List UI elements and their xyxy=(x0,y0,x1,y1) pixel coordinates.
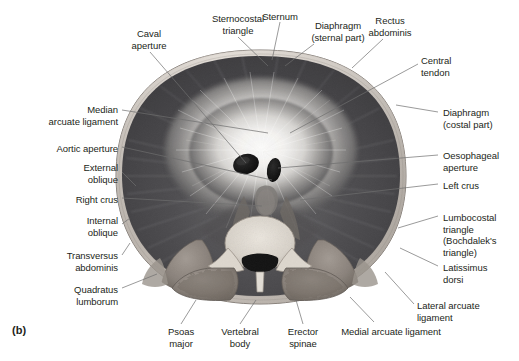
label-aortic-aperture: Aortic aperture xyxy=(18,143,118,155)
label-right-crus: Right crus xyxy=(38,194,118,206)
figure-marker: (b) xyxy=(12,324,26,336)
label-rectus-abdominis: Rectus abdominis xyxy=(358,15,422,38)
leader-line-erector-spinae xyxy=(296,300,303,324)
anatomical-figure: Caval apertureSternocostal triangleStern… xyxy=(0,0,519,361)
label-oesophageal-aperture: Oesophageal aperture xyxy=(443,150,519,173)
label-erector-spinae: Erector spinae xyxy=(278,326,328,349)
leader-line-medial-arcuate xyxy=(350,297,374,322)
label-medial-arcuate: Medial arcuate ligament xyxy=(330,326,452,338)
label-external-oblique: External oblique xyxy=(40,162,118,185)
leader-line-lateral-arcuate xyxy=(385,272,414,304)
label-median-arcuate: Median arcuate ligament xyxy=(18,104,118,127)
label-lumbocostal-triangle: Lumbocostal triangle (Bochdalek's triang… xyxy=(443,212,519,258)
leader-line-transversus-abdominis xyxy=(122,243,130,255)
leader-line-diaphragm-costal xyxy=(396,105,438,112)
label-central-tendon: Central tendon xyxy=(421,55,481,78)
label-caval-aperture: Caval aperture xyxy=(113,28,185,51)
label-lateral-arcuate: Lateral arcuate ligament xyxy=(417,300,501,323)
leader-line-latissimus-dorsi xyxy=(400,248,438,266)
label-left-crus: Left crus xyxy=(443,180,503,192)
label-vertebral-body: Vertebral body xyxy=(212,326,268,349)
label-quadratus-lumborum: Quadratus lumborum xyxy=(30,284,118,307)
label-internal-oblique: Internal oblique xyxy=(40,215,118,238)
leader-line-rectus-abdominis xyxy=(352,39,383,68)
leader-line-lumbocostal-triangle xyxy=(398,216,438,228)
label-latissimus-dorsi: Latissimus dorsi xyxy=(443,262,511,285)
label-transversus-abdominis: Transversus abdominis xyxy=(22,250,118,273)
label-psoas-major: Psoas major xyxy=(157,326,205,349)
label-diaphragm-costal: Diaphragm (costal part) xyxy=(443,107,517,130)
leader-line-psoas-major xyxy=(181,300,196,324)
